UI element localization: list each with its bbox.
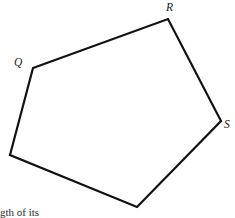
pentagon-shape bbox=[0, 0, 235, 218]
pentagon-outline-path bbox=[10, 19, 221, 207]
vertex-label-q: Q bbox=[14, 57, 22, 69]
clipped-caption: gth of its bbox=[0, 206, 235, 218]
clipped-caption-text: gth of its bbox=[0, 206, 39, 218]
vertex-label-s: S bbox=[224, 119, 230, 131]
vertex-label-r: R bbox=[166, 2, 173, 14]
pentagon-figure: Q R S gth of its bbox=[0, 0, 235, 218]
